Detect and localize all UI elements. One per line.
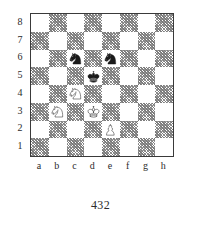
square-a7[interactable] [31, 32, 49, 50]
square-f4[interactable] [120, 85, 138, 103]
square-g8[interactable] [138, 14, 156, 32]
square-c8[interactable] [67, 14, 85, 32]
square-h4[interactable] [155, 85, 173, 103]
square-g3[interactable] [138, 103, 156, 121]
square-c2[interactable] [67, 121, 85, 139]
square-b3[interactable] [49, 103, 67, 121]
square-e1[interactable] [102, 138, 120, 156]
square-f3[interactable] [120, 103, 138, 121]
square-e8[interactable] [102, 14, 120, 32]
white-pawn-icon[interactable] [102, 121, 120, 139]
square-c1[interactable] [67, 138, 85, 156]
square-a8[interactable] [31, 14, 49, 32]
rank-label-1: 1 [12, 137, 28, 155]
file-label-d: d [83, 158, 101, 174]
square-e7[interactable] [102, 32, 120, 50]
rank-label-6: 6 [12, 49, 28, 67]
square-h3[interactable] [155, 103, 173, 121]
diagram-caption: 432 [0, 198, 201, 213]
square-h8[interactable] [155, 14, 173, 32]
black-king-icon[interactable] [84, 67, 102, 85]
square-g1[interactable] [138, 138, 156, 156]
square-a4[interactable] [31, 85, 49, 103]
black-knight-icon[interactable] [102, 50, 120, 68]
rank-label-3: 3 [12, 102, 28, 120]
square-b8[interactable] [49, 14, 67, 32]
square-d5[interactable] [84, 67, 102, 85]
white-king-icon[interactable] [84, 103, 102, 121]
square-a3[interactable] [31, 103, 49, 121]
square-f8[interactable] [120, 14, 138, 32]
square-h7[interactable] [155, 32, 173, 50]
square-c6[interactable] [67, 50, 85, 68]
square-g5[interactable] [138, 67, 156, 85]
square-c3[interactable] [67, 103, 85, 121]
square-c7[interactable] [67, 32, 85, 50]
square-b2[interactable] [49, 121, 67, 139]
square-b7[interactable] [49, 32, 67, 50]
file-label-b: b [48, 158, 66, 174]
file-label-row: abcdefgh [30, 158, 172, 174]
square-h6[interactable] [155, 50, 173, 68]
square-b5[interactable] [49, 67, 67, 85]
square-f1[interactable] [120, 138, 138, 156]
file-label-a: a [30, 158, 48, 174]
square-h2[interactable] [155, 121, 173, 139]
square-d2[interactable] [84, 121, 102, 139]
square-a2[interactable] [31, 121, 49, 139]
square-f2[interactable] [120, 121, 138, 139]
square-a1[interactable] [31, 138, 49, 156]
rank-label-7: 7 [12, 31, 28, 49]
square-g2[interactable] [138, 121, 156, 139]
white-knight-icon[interactable] [49, 103, 67, 121]
chess-diagram: 87654321 abcdefgh 432 [0, 0, 201, 227]
square-e4[interactable] [102, 85, 120, 103]
square-f5[interactable] [120, 67, 138, 85]
square-c5[interactable] [67, 67, 85, 85]
square-e3[interactable] [102, 103, 120, 121]
square-h1[interactable] [155, 138, 173, 156]
square-g4[interactable] [138, 85, 156, 103]
square-d7[interactable] [84, 32, 102, 50]
black-knight-icon[interactable] [67, 50, 85, 68]
square-a5[interactable] [31, 67, 49, 85]
square-e2[interactable] [102, 121, 120, 139]
rank-label-5: 5 [12, 66, 28, 84]
square-f7[interactable] [120, 32, 138, 50]
file-label-h: h [154, 158, 172, 174]
square-h5[interactable] [155, 67, 173, 85]
square-b6[interactable] [49, 50, 67, 68]
square-c4[interactable] [67, 85, 85, 103]
file-label-c: c [66, 158, 84, 174]
square-d1[interactable] [84, 138, 102, 156]
square-d3[interactable] [84, 103, 102, 121]
rank-label-2: 2 [12, 120, 28, 138]
square-b1[interactable] [49, 138, 67, 156]
rank-label-4: 4 [12, 84, 28, 102]
rank-label-column: 87654321 [12, 13, 28, 155]
square-b4[interactable] [49, 85, 67, 103]
file-label-g: g [137, 158, 155, 174]
square-d4[interactable] [84, 85, 102, 103]
file-label-e: e [101, 158, 119, 174]
white-knight-icon[interactable] [67, 85, 85, 103]
square-e6[interactable] [102, 50, 120, 68]
chessboard[interactable] [30, 13, 174, 157]
square-g6[interactable] [138, 50, 156, 68]
square-a6[interactable] [31, 50, 49, 68]
rank-label-8: 8 [12, 13, 28, 31]
file-label-f: f [119, 158, 137, 174]
square-f6[interactable] [120, 50, 138, 68]
square-e5[interactable] [102, 67, 120, 85]
square-d8[interactable] [84, 14, 102, 32]
square-g7[interactable] [138, 32, 156, 50]
square-d6[interactable] [84, 50, 102, 68]
